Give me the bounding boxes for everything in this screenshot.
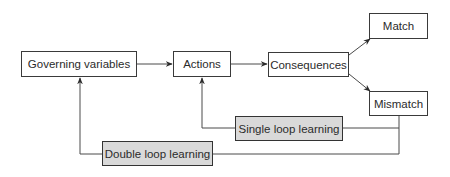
governing-variables-label: Governing variables: [28, 58, 130, 70]
actions-box: Actions: [173, 51, 231, 77]
mismatch-box: Mismatch: [369, 91, 428, 116]
single-loop-line-right: [343, 116, 399, 128]
consequences-box: Consequences: [268, 52, 349, 77]
double-loop-learning-box: Double loop learning: [102, 141, 213, 166]
mismatch-label: Mismatch: [374, 98, 423, 110]
arrow-consequences-to-match: [349, 39, 370, 55]
single-loop-learning-label: Single loop learning: [238, 123, 339, 135]
governing-variables-box: Governing variables: [21, 51, 137, 77]
double-loop-learning-label: Double loop learning: [105, 148, 211, 160]
actions-label: Actions: [183, 58, 221, 70]
consequences-label: Consequences: [270, 59, 347, 71]
single-loop-learning-box: Single loop learning: [235, 116, 343, 141]
double-loop-line-left: [80, 78, 102, 154]
match-label: Match: [383, 20, 414, 32]
match-box: Match: [369, 13, 428, 39]
arrow-consequences-to-mismatch: [349, 74, 370, 91]
single-loop-line-left: [202, 78, 235, 128]
